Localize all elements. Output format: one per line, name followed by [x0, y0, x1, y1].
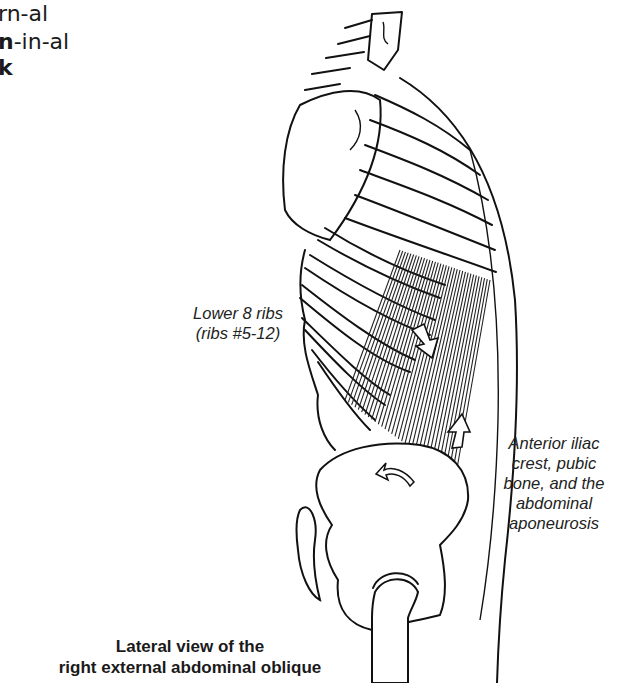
caption-line: right external abdominal oblique [0, 657, 380, 678]
scapula [283, 91, 381, 240]
contraction-arrow-down [412, 324, 438, 358]
insertion-label-line: abdominal [480, 493, 626, 513]
insertion-label-line: crest, pubic [480, 453, 626, 473]
insertion-label-line: aponeurosis [480, 513, 626, 533]
insertion-label-line: bone, and the [480, 473, 626, 493]
muscle-fiber [445, 277, 482, 472]
sacrum [296, 507, 320, 600]
cervical-spine [305, 12, 402, 90]
thoracolumbar-spine [300, 250, 335, 450]
origin-label: Lower 8 ribs (ribs #5-12) [168, 303, 308, 343]
caption-line: Lateral view of the [0, 636, 380, 657]
origin-label-line: Lower 8 ribs [168, 303, 308, 323]
figure-caption: Lateral view of the right external abdom… [0, 636, 380, 678]
anatomy-illustration [0, 0, 626, 683]
origin-label-line: (ribs #5-12) [168, 323, 308, 343]
insertion-label: Anterior iliac crest, pubic bone, and th… [480, 433, 626, 533]
insertion-label-line: Anterior iliac [480, 433, 626, 453]
